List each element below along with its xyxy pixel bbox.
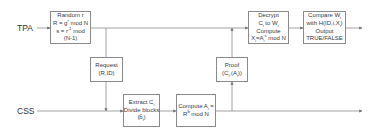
text: ,(A: [229, 70, 237, 76]
text: )): [238, 70, 242, 76]
proof-line-1: Proof: [225, 62, 239, 70]
text: Compare W: [308, 12, 340, 18]
text: with H(ID,i,X: [306, 20, 339, 26]
extract-line-3: (b̃i): [137, 114, 145, 122]
decrypt-line-4: Xi=Ais mod N: [251, 35, 286, 43]
lane-label-css: CSS: [17, 106, 34, 116]
random-line-4: (N-1): [64, 35, 78, 43]
decrypt-line-1: Decrypt: [258, 12, 279, 20]
random-r-box: Random r R = gr mod N s = r-1 mod (N-1): [50, 11, 91, 44]
extract-box: Extract Ci Divide blocks (b̃i): [123, 94, 160, 127]
compute-a-box: Compute Ai = Rb̃ mod N: [176, 94, 216, 127]
text: mod: [72, 28, 85, 34]
decrypt-line-2: Ci to Wi: [258, 20, 278, 28]
subscript: i: [264, 38, 265, 43]
compare-line-3: Output: [315, 28, 333, 36]
compare-box: Compare Wi with H(ID,i,Xi) Output TRUE/F…: [303, 11, 346, 44]
compute-a-line-1: Compute Ai =: [178, 103, 214, 111]
proof-line-2: (Ci,(Ai)): [222, 70, 242, 78]
compare-line-2: with H(ID,i,Xi): [306, 20, 342, 28]
text: =: [209, 103, 214, 109]
text: R = g: [53, 20, 68, 26]
text: Compute A: [178, 103, 208, 109]
request-box: Request (R,ID): [90, 57, 123, 82]
text: ): [341, 20, 343, 26]
proof-box: Proof (Ci,(Ai)): [216, 57, 248, 82]
compare-line-1: Compare Wi: [308, 12, 341, 20]
compute-a-line-2: Rb̃ mod N: [183, 111, 209, 119]
text: mod N: [266, 35, 285, 41]
random-line-1: Random r: [57, 12, 83, 20]
lane-label-tpa: TPA: [17, 23, 33, 33]
extract-line-1: Extract Ci: [129, 99, 155, 107]
random-line-3: s = r-1 mod: [56, 28, 85, 36]
decrypt-line-3: Compute: [256, 28, 280, 36]
request-line-2: (R,ID): [99, 70, 115, 78]
text: mod N: [69, 20, 88, 26]
text: ): [144, 114, 146, 120]
text: mod N: [190, 111, 209, 117]
protocol-flow-diagram: TPA CSS Random r R = gr mod N s = r-1 mo…: [0, 0, 380, 136]
text: Extract C: [129, 99, 154, 105]
text: =A: [256, 35, 264, 41]
extract-line-2: Divide blocks: [124, 107, 159, 115]
request-line-1: Request: [95, 62, 117, 70]
text: s = r: [56, 28, 68, 34]
text: to W: [264, 20, 278, 26]
decrypt-box: Decrypt Ci to Wi Compute Xi=Ais mod N: [248, 11, 289, 44]
compare-line-4: TRUE/FALSE: [306, 35, 343, 43]
